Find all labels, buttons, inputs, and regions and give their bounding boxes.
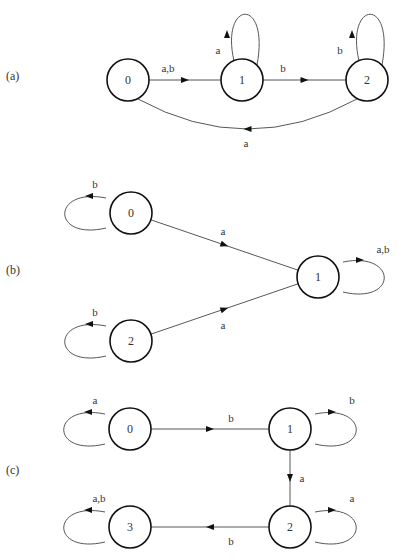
- arrowhead-icon: [206, 524, 214, 530]
- state-a-0: 0: [107, 59, 149, 101]
- transition-label: a: [300, 472, 305, 484]
- state-c-3: 3: [109, 506, 151, 548]
- states: 012: [110, 192, 339, 362]
- panel-b: (b)aabba,b012: [6, 178, 390, 362]
- arrowhead-icon: [181, 77, 189, 83]
- arrowhead-icon: [84, 409, 92, 415]
- state-label: 2: [287, 520, 293, 534]
- panels: (a)a,bbaab012(b)aabba,b012(c)bababaa,b01…: [6, 14, 390, 548]
- state-label: 1: [239, 73, 245, 87]
- state-a-1: 1: [221, 59, 263, 101]
- transition-b-1-1: [343, 261, 384, 295]
- state-label: 1: [287, 422, 293, 436]
- state-b-1: 1: [297, 256, 339, 298]
- state-label: 0: [127, 422, 133, 436]
- transition-a-2-0: [138, 99, 357, 129]
- arrowhead-icon: [206, 426, 214, 432]
- transition-label: a: [244, 137, 249, 149]
- transition-label: b: [92, 306, 98, 318]
- transition-label: a: [221, 225, 226, 237]
- transition-c-0-0: [64, 413, 105, 447]
- arrowhead-icon: [349, 30, 355, 38]
- transition-label: a,b: [376, 243, 390, 255]
- transition-b-0-0: [65, 197, 106, 231]
- arrowhead-icon: [84, 507, 92, 513]
- transition-label: b: [337, 44, 343, 56]
- transition-label: a: [93, 394, 98, 406]
- transition-c-3-3: [64, 511, 105, 545]
- state-c-2: 2: [269, 506, 311, 548]
- transition-label: b: [228, 412, 234, 424]
- transition-label: a: [350, 492, 355, 504]
- arrowhead-icon: [287, 474, 293, 482]
- transition-label: a: [221, 319, 226, 331]
- state-a-2: 2: [346, 59, 388, 101]
- transition-label: b: [92, 178, 98, 190]
- arrowhead-icon: [85, 321, 93, 327]
- state-c-1: 1: [269, 408, 311, 450]
- transition-a-2-2: [357, 14, 385, 65]
- state-label: 3: [127, 520, 133, 534]
- state-label: 0: [125, 73, 131, 87]
- arrowhead-icon: [356, 257, 364, 263]
- state-label: 2: [364, 73, 370, 87]
- state-b-2: 2: [110, 320, 152, 362]
- arrowhead-icon: [244, 126, 252, 132]
- transition-label: b: [349, 394, 355, 406]
- arrowhead-icon: [224, 30, 230, 38]
- transition-b-2-2: [65, 325, 106, 359]
- transition-a-1-1: [232, 14, 260, 65]
- transition-label: a,b: [92, 492, 106, 504]
- state-label: 2: [128, 334, 134, 348]
- states: 012: [107, 59, 388, 101]
- panel-label: (b): [6, 263, 20, 277]
- panel-c: (c)bababaa,b0123: [6, 394, 356, 548]
- state-b-0: 0: [110, 192, 152, 234]
- transition-label: b: [228, 535, 234, 547]
- state-c-0: 0: [109, 408, 151, 450]
- arrowhead-icon: [328, 507, 336, 513]
- panel-a: (a)a,bbaab012: [6, 14, 388, 149]
- arrowhead-icon: [220, 241, 230, 249]
- state-label: 0: [128, 206, 134, 220]
- state-label: 1: [315, 270, 321, 284]
- transition-label: b: [280, 62, 286, 74]
- panel-label: (a): [6, 69, 19, 83]
- arrowhead-icon: [328, 409, 336, 415]
- transition-c-2-2: [315, 511, 356, 545]
- panel-label: (c): [6, 463, 19, 477]
- arrowhead-icon: [301, 77, 309, 83]
- transition-c-1-1: [315, 413, 356, 447]
- transition-label: a: [216, 44, 221, 56]
- arrowhead-icon: [220, 305, 230, 313]
- transition-label: a,b: [161, 62, 175, 74]
- finite-automata-figure: (a)a,bbaab012(b)aabba,b012(c)bababaa,b01…: [0, 0, 401, 560]
- arrowhead-icon: [85, 193, 93, 199]
- edges: bababaa,b: [64, 394, 357, 547]
